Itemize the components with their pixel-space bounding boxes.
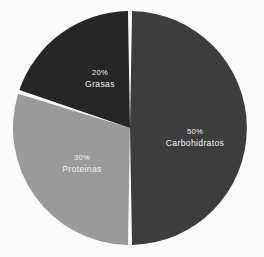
pie-chart-canvas: 50%Carbohidratos30%Proteinas20%Grasas bbox=[0, 0, 264, 257]
slice-name-proteinas: Proteinas bbox=[62, 164, 101, 174]
slice-percent-grasas: 20% bbox=[92, 68, 108, 77]
slice-percent-carbohidratos: 50% bbox=[187, 127, 203, 136]
slice-percent-proteinas: 30% bbox=[74, 153, 90, 162]
slice-name-carbohidratos: Carbohidratos bbox=[166, 138, 225, 148]
pie-chart: 50%Carbohidratos30%Proteinas20%Grasas bbox=[0, 0, 264, 257]
slice-name-grasas: Grasas bbox=[85, 79, 115, 89]
